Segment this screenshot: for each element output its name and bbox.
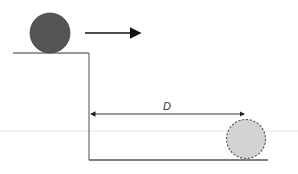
distance-label: D <box>163 100 171 112</box>
ball <box>30 13 70 53</box>
landing-ball-ghost <box>227 120 266 159</box>
projectile-diagram <box>0 0 298 174</box>
